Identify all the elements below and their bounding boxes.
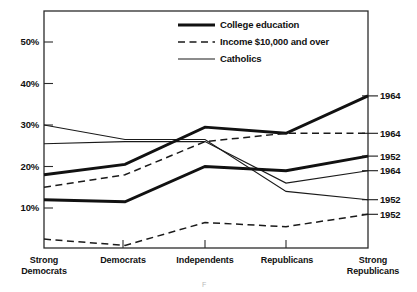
legend-item-catholics: Catholics <box>220 53 261 64</box>
x-category-label-line2: Republicans <box>330 266 416 277</box>
series-end-label-catholics-1952: 1952 <box>380 194 400 205</box>
chart-canvas <box>0 0 417 292</box>
legend-item-income-10000-and-over: Income $10,000 and over <box>220 36 329 47</box>
x-category-label-line1: Republicans <box>249 255 325 266</box>
series-end-label-income-1964: 1964 <box>380 128 400 139</box>
series-end-label-college-education-1952: 1952 <box>380 151 400 162</box>
series-line-catholics-1964 <box>44 142 368 184</box>
series-line-income-10000-and-over-1952 <box>44 214 368 245</box>
x-category-label-strong-republicans: Strong Republicans <box>330 255 416 277</box>
series-end-ticks <box>362 96 378 214</box>
series-line-income-10000-and-over-1964 <box>44 133 368 187</box>
legend-item-college-education: College education <box>220 19 299 30</box>
x-category-label-line2: Democrats <box>4 266 84 277</box>
series-end-label-college-education-1964: 1964 <box>380 90 400 101</box>
y-tick-label-30: 30% <box>4 119 39 130</box>
y-tick-label-40: 40% <box>4 78 39 89</box>
x-category-label-line1: Strong <box>330 255 416 266</box>
y-tick-label-20: 20% <box>4 161 39 172</box>
y-tick-label-10: 10% <box>4 202 39 213</box>
legend-samples <box>178 25 215 59</box>
x-category-label-strong-democrats: Strong Democrats <box>4 255 84 277</box>
x-category-label-line1: Strong <box>4 255 84 266</box>
x-category-label-line1: Democrats <box>85 255 161 266</box>
series-line-college-education-1964 <box>44 96 368 175</box>
figure-caption: F <box>202 281 206 288</box>
line-chart: 50% 40% 30% 20% 10% Strong Democrats Dem… <box>0 0 417 292</box>
x-axis-ticks <box>123 240 286 248</box>
x-category-label-republicans: Republicans <box>249 255 325 266</box>
x-category-label-independents: Independents <box>165 255 245 266</box>
series-end-label-income-1952: 1952 <box>380 209 400 220</box>
x-category-label-line1: Independents <box>165 255 245 266</box>
series-end-label-catholics-1964: 1964 <box>380 165 400 176</box>
x-category-label-democrats: Democrats <box>85 255 161 266</box>
series-line-catholics-1952 <box>44 125 368 200</box>
y-tick-label-50: 50% <box>4 36 39 47</box>
